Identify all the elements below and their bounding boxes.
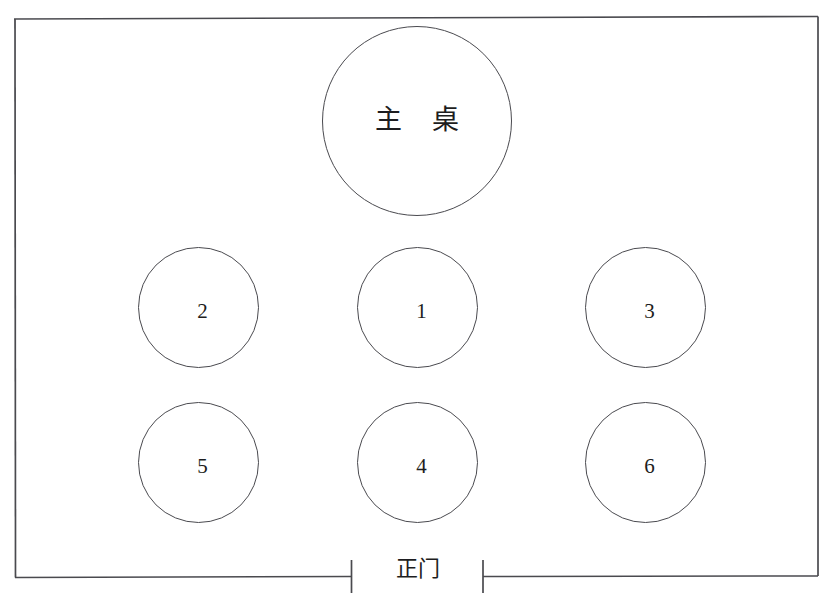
table-6-label: 6 xyxy=(644,456,655,477)
wall-bottom-left-segment xyxy=(15,577,352,578)
table-2[interactable]: 2 xyxy=(138,247,259,368)
table-1-label: 1 xyxy=(416,301,427,322)
entrance-label: 正门 xyxy=(386,558,450,580)
table-3[interactable]: 3 xyxy=(585,247,706,368)
seating-chart-canvas: 主 桌 2 1 3 5 4 6 正门 xyxy=(0,0,832,604)
table-4-label: 4 xyxy=(416,456,427,477)
table-4[interactable]: 4 xyxy=(357,402,478,523)
table-5[interactable]: 5 xyxy=(138,402,259,523)
wall-bottom-right-segment xyxy=(483,576,818,577)
wall-left xyxy=(15,19,16,578)
table-6[interactable]: 6 xyxy=(585,402,706,523)
table-3-label: 3 xyxy=(644,301,655,322)
table-main[interactable]: 主 桌 xyxy=(322,26,512,216)
table-2-label: 2 xyxy=(197,301,208,322)
table-5-label: 5 xyxy=(197,456,208,477)
table-main-label: 主 桌 xyxy=(364,107,470,134)
table-1[interactable]: 1 xyxy=(357,247,478,368)
wall-top xyxy=(14,17,818,20)
